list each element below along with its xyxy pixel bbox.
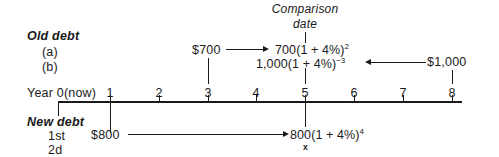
formula-old-b-exponent: −3 [336,56,345,65]
old-debt-row-b-label: (b) [42,61,58,74]
tick-year-0 [58,101,59,116]
amount-1000-arrow-shaft [371,62,426,63]
year-tick-mark-6 [354,95,355,101]
new-debt-heading: New debt [27,116,84,129]
old-debt-heading: Old debt [27,30,79,43]
amount-1000-label: $1,000 [427,56,466,69]
year-tick-mark-7 [403,95,404,101]
formula-old-a-exponent: 2 [345,42,349,51]
new-debt-row-2d-label: 2d [48,144,62,157]
formula-new-debt: 800(1 + 4%)4 [290,128,364,142]
amount-700-arrow-head [263,46,269,52]
amount-800-label: $800 [91,129,120,142]
comparison-date-line2: date [265,18,345,30]
amount-800-arrow-head [283,131,289,137]
amount-700-dropline [208,58,209,84]
comparison-date-connector-bottom [305,100,306,127]
formula-old-a-base: 700(1 + 4%) [275,43,345,57]
year-tick-mark-4 [256,95,257,101]
x-unknown-marker: x [303,143,308,152]
year-tick-mark-8 [452,95,453,101]
year-axis-label: Year 0(now) [27,87,96,100]
new-debt-row-1st-label: 1st [48,130,65,143]
year-tick-mark-3 [208,95,209,101]
formula-new-debt-base: 800(1 + 4%) [290,128,360,142]
timeline-axis [58,101,462,103]
amount-800-arrow-shaft [128,134,284,135]
timeline-diagram: Old debt (a) (b) Comparison date $700 70… [0,0,499,157]
year-tick-mark-5 [305,95,306,101]
amount-700-arrow-shaft [226,49,264,50]
formula-old-b-base: 1,000(1 + 4%) [256,57,336,71]
year-tick-mark-2 [159,95,160,101]
formula-old-a: 700(1 + 4%)2 [275,43,349,57]
comparison-date-connector-top [305,32,306,43]
formula-old-b: 1,000(1 + 4%)−3 [256,57,345,71]
amount-1000-dropline [452,70,453,84]
amount-700-label: $700 [192,44,221,57]
comparison-date-line1: Comparison [265,3,345,15]
old-debt-row-a-label: (a) [42,46,58,59]
formula-new-debt-exponent: 4 [360,127,364,136]
